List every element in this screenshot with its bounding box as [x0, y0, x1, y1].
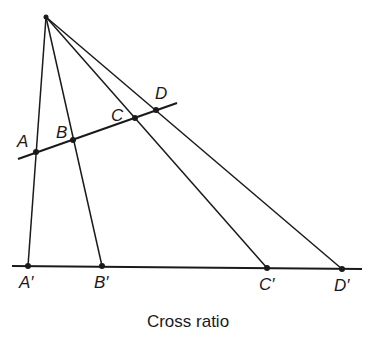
point-b-prime: [99, 263, 105, 269]
label-c: C: [111, 106, 124, 125]
ray-d: [46, 17, 342, 269]
point-a-prime: [25, 263, 31, 269]
label-c-prime: C′: [259, 275, 275, 294]
caption: Cross ratio: [147, 312, 229, 331]
label-a-prime: A′: [18, 273, 34, 292]
point-d-prime: [339, 266, 345, 272]
point-c: [132, 115, 138, 121]
ray-a: [28, 17, 46, 266]
base-line: [12, 266, 362, 269]
apex-point: [44, 15, 49, 20]
label-a: A: [16, 132, 28, 151]
point-b: [70, 137, 76, 143]
label-d-prime: D′: [334, 276, 350, 295]
point-c-prime: [264, 265, 270, 271]
cross-ratio-diagram: A B C D A′ B′ C′ D′ Cross ratio: [0, 0, 377, 340]
transversal-line: [18, 103, 177, 159]
label-b: B: [56, 123, 67, 142]
label-b-prime: B′: [94, 273, 109, 292]
ray-c: [46, 17, 267, 268]
point-a: [33, 149, 39, 155]
point-d: [153, 107, 159, 113]
label-d: D: [155, 84, 167, 103]
